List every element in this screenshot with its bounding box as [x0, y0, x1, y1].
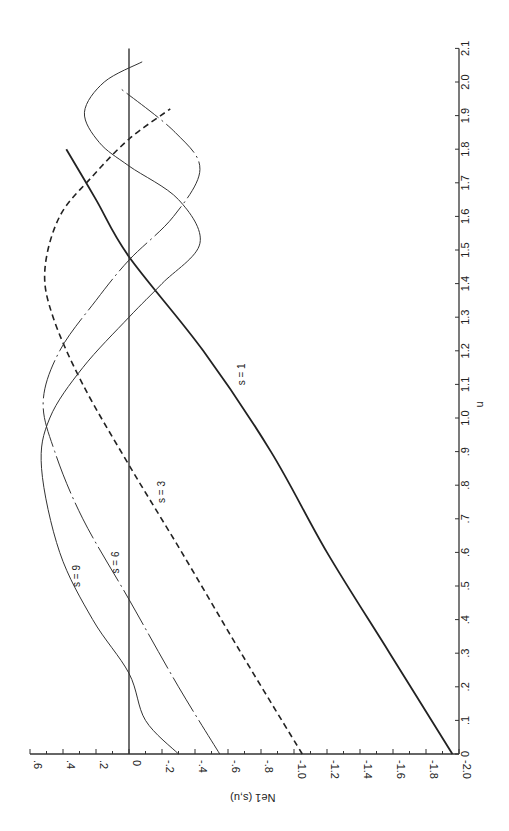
value-axis-tick-label: .4 [65, 760, 77, 769]
value-axis-tick-label: 0 [131, 760, 143, 766]
u-axis-tick-label: 2.0 [459, 74, 471, 89]
value-axis-tick-label: -.8 [263, 760, 275, 773]
u-axis-tick-label: 1.3 [459, 310, 471, 325]
value-axis-title: Ne1 (s,u) [230, 792, 275, 804]
u-axis-tick-label: .6 [459, 548, 471, 557]
u-axis-tick-label: 1.5 [459, 242, 471, 257]
value-axis-tick-label: -1.0 [296, 760, 308, 779]
curves [41, 48, 452, 754]
value-axis-tick-label: .2 [98, 760, 110, 769]
series-s-6 [43, 89, 220, 754]
value-axis-tick-label: -2.0 [461, 760, 473, 779]
value-axis-tick-label: .6 [32, 760, 44, 769]
u-axis-tick-label: 1.8 [459, 142, 471, 157]
u-axis-tick-label: 0 [459, 751, 471, 757]
series-label-s-6: s = 6 [110, 551, 121, 573]
u-axis-tick-label: .1 [459, 716, 471, 725]
u-axis-tick-label: .7 [459, 514, 471, 523]
value-axis-tick-label: -1.2 [329, 760, 341, 779]
u-axis-tick-label: .4 [459, 615, 471, 624]
u-axis-tick-label: .9 [459, 447, 471, 456]
value-axis-tick-label: -1.8 [428, 760, 440, 779]
u-axis-title: u [473, 401, 485, 407]
value-axis-tick-label: -.4 [197, 760, 209, 773]
u-axis-tick-label: .5 [459, 581, 471, 590]
series-label-s-9: s = 9 [71, 565, 82, 587]
series-label-s-1: s = 1 [236, 363, 247, 385]
series-s-1 [66, 149, 452, 754]
u-axis-tick-label: 1.2 [459, 343, 471, 358]
value-axis-tick-label: -1.4 [362, 760, 374, 779]
u-axis-tick-label: 1.9 [459, 108, 471, 123]
u-axis-tick-label: 1.1 [459, 377, 471, 392]
value-axis-tick-label: -.2 [164, 760, 176, 773]
axes: .6.4.20-.2-.4-.6-.8-1.0-1.2-1.4-1.6-1.8-… [30, 41, 485, 804]
series-s-9 [41, 62, 200, 754]
u-axis-tick-label: 1.7 [459, 175, 471, 190]
u-axis-tick-label: .3 [459, 649, 471, 658]
chart: .6.4.20-.2-.4-.6-.8-1.0-1.2-1.4-1.6-1.8-… [0, 0, 509, 831]
u-axis-tick-label: 2.1 [459, 41, 471, 56]
u-axis-tick-label: .8 [459, 481, 471, 490]
value-axis-tick-label: -.6 [230, 760, 242, 773]
u-axis-tick-label: 1.0 [459, 410, 471, 425]
u-axis-tick-label: 1.4 [459, 276, 471, 291]
series-s-3 [45, 109, 303, 754]
labels: s = 1s = 3s = 6s = 9 [71, 363, 247, 587]
u-axis-tick-label: 1.6 [459, 209, 471, 224]
value-axis-tick-label: -1.6 [395, 760, 407, 779]
series-label-s-3: s = 3 [156, 481, 167, 503]
u-axis-tick-label: .2 [459, 682, 471, 691]
